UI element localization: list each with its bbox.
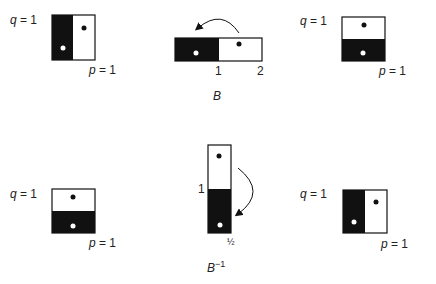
p-label: p = 1 <box>378 64 406 78</box>
black-dot <box>82 26 87 31</box>
baker-map-diagram: q = 1 p = 1 1 2 B q = 1 p = 1 q = 1 p = … <box>0 0 436 284</box>
bottom-middle-strip: 1 ½ B−1 <box>198 145 253 275</box>
curved-arrow-down-icon <box>238 168 253 214</box>
q-label: q = 1 <box>10 13 37 27</box>
p-label: p = 1 <box>380 237 408 251</box>
white-dot <box>361 51 366 56</box>
white-dot <box>71 224 76 229</box>
black-dot <box>374 200 379 205</box>
width-label: ½ <box>227 237 235 247</box>
q-label: q = 1 <box>300 14 327 28</box>
white-dot <box>61 46 66 51</box>
top-right-square: q = 1 p = 1 <box>300 14 406 78</box>
top-middle-strip: 1 2 B <box>175 19 264 103</box>
bottom-left-square: q = 1 p = 1 <box>10 187 116 250</box>
q-label: q = 1 <box>10 187 37 201</box>
black-dot <box>71 195 76 200</box>
p-label: p = 1 <box>88 63 116 77</box>
q-label: q = 1 <box>300 187 327 201</box>
tick-2: 2 <box>257 64 264 78</box>
black-dot <box>217 154 222 159</box>
p-label: p = 1 <box>88 236 116 250</box>
top-left-square: q = 1 p = 1 <box>10 13 116 77</box>
bottom-right-square: q = 1 p = 1 <box>300 187 408 251</box>
black-dot <box>362 23 367 28</box>
white-dot <box>352 220 357 225</box>
white-dot <box>194 51 199 56</box>
curved-arrow-left-icon <box>198 19 239 33</box>
tick-1: 1 <box>215 64 222 78</box>
black-dot <box>237 42 242 47</box>
caption-b-inverse: B−1 <box>207 259 225 275</box>
white-dot <box>218 223 223 228</box>
caption-b: B <box>213 89 221 103</box>
height-label: 1 <box>198 182 205 196</box>
